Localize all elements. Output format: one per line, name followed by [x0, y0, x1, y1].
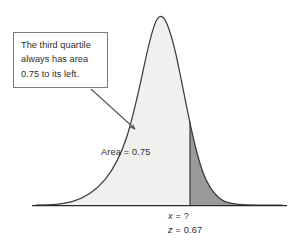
normal-curve-figure: The third quartile always has area 0.75 …	[0, 0, 301, 248]
area-label: Area = 0.75	[101, 147, 150, 157]
callout-line-2: always has area	[21, 52, 101, 66]
x-value-label: x = ?	[168, 209, 238, 223]
callout-line-1: The third quartile	[21, 38, 101, 52]
callout-line-3: 0.75 to its left.	[21, 67, 101, 81]
third-quartile-callout-box: The third quartile always has area 0.75 …	[13, 32, 108, 88]
x-equals-symbol: =	[173, 211, 184, 221]
right-area-region	[190, 123, 282, 206]
z-value-label: z = 0.67	[168, 223, 238, 237]
callout-arrow	[91, 89, 135, 129]
axis-annotation-group: x = ? z = 0.67	[168, 209, 238, 237]
x-value: ?	[184, 211, 189, 221]
z-equals-symbol: =	[173, 225, 184, 235]
z-value: 0.67	[184, 225, 202, 235]
